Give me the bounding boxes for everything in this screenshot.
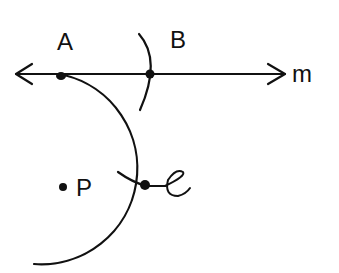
label-m: m [292, 62, 312, 86]
label-C-glyph [165, 171, 190, 196]
label-A: A [57, 30, 73, 54]
label-P: P [76, 176, 92, 200]
point-A [56, 72, 66, 80]
point-P [59, 183, 67, 191]
label-B: B [170, 28, 186, 52]
point-C [140, 180, 150, 190]
point-B [146, 70, 155, 79]
large-arc [34, 75, 137, 264]
